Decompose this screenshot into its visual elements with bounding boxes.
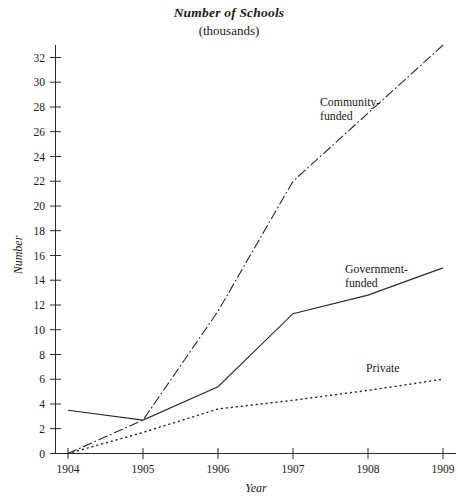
y-tick-label: 28 [34, 101, 46, 113]
x-axis-tick-labels: 1904 1905 1906 1907 1908 1909 [57, 463, 455, 475]
y-tick-label: 26 [34, 126, 46, 138]
series-line-community-funded [68, 45, 443, 453]
y-tick-label: 32 [34, 52, 46, 64]
x-tick-label: 1905 [132, 463, 155, 475]
y-tick-label: 8 [39, 349, 45, 361]
y-axis-title: Number [11, 235, 25, 275]
series-label-community-funded-line2: funded [320, 109, 353, 123]
y-tick-label: 0 [39, 448, 45, 460]
y-tick-label: 2 [39, 423, 45, 435]
series-line-government-funded [68, 268, 443, 420]
x-tick-label: 1907 [282, 463, 305, 475]
series-label-government-funded-line2: funded [345, 276, 378, 290]
y-tick-label: 12 [34, 299, 46, 311]
y-tick-label: 6 [39, 373, 45, 385]
y-tick-label: 30 [34, 76, 46, 88]
line-chart-plot: 0 2 4 6 8 10 12 14 16 18 20 22 24 26 28 … [0, 0, 458, 501]
y-axis: 0 2 4 6 8 10 12 14 16 18 20 22 24 26 28 … [11, 45, 61, 460]
series-label-government-funded-line1: Government- [345, 262, 408, 276]
y-tick-label: 20 [34, 200, 46, 212]
series-label-community-funded-line1: Community- [320, 95, 380, 109]
series-line-private [68, 379, 443, 453]
y-tick-label: 18 [34, 225, 46, 237]
chart-container: Number of Schools (thousands) [0, 0, 458, 501]
y-tick-label: 10 [34, 324, 46, 336]
y-tick-label: 14 [34, 274, 46, 286]
x-tick-label: 1909 [432, 463, 455, 475]
x-axis: 1904 1905 1906 1907 1908 1909 Year [56, 448, 457, 495]
y-tick-label: 16 [34, 250, 46, 262]
series-annotations: Community- funded Government- funded Pri… [320, 95, 408, 375]
x-axis-title: Year [245, 481, 267, 495]
series-group [68, 45, 443, 453]
x-tick-label: 1904 [57, 463, 80, 475]
y-tick-label: 4 [39, 398, 45, 410]
series-label-private: Private [366, 361, 399, 375]
y-tick-label: 22 [34, 175, 46, 187]
x-tick-label: 1906 [207, 463, 230, 475]
y-tick-label: 24 [34, 151, 46, 163]
x-tick-label: 1908 [357, 463, 380, 475]
y-axis-tick-labels: 0 2 4 6 8 10 12 14 16 18 20 22 24 26 28 … [34, 52, 46, 460]
